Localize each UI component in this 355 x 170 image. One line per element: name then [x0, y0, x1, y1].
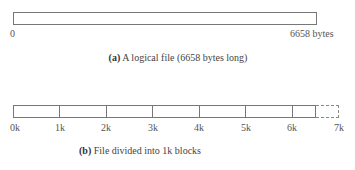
unused-block-remainder — [316, 105, 339, 118]
caption-a-text: A logical file (6658 bytes long) — [120, 52, 247, 63]
block-divider-4k — [199, 105, 200, 118]
file-end-label: 6658 bytes — [290, 28, 334, 39]
tick-label-6k: 6k — [287, 122, 297, 133]
block-divider-2k — [106, 105, 107, 118]
caption-a: (a) A logical file (6658 bytes long) — [109, 52, 248, 64]
logical-file-bar — [13, 12, 317, 25]
block-divider-1k — [59, 105, 60, 118]
tick-label-5k: 5k — [241, 122, 251, 133]
caption-a-letter: (a) — [109, 52, 121, 63]
file-start-label: 0 — [10, 28, 15, 39]
caption-b: (b) File divided into 1k blocks — [79, 145, 201, 157]
block-divider-5k — [245, 105, 246, 118]
block-divider-6k — [292, 105, 293, 118]
tick-label-7k: 7k — [334, 122, 344, 133]
tick-label-4k: 4k — [194, 122, 204, 133]
tick-label-2k: 2k — [101, 122, 111, 133]
caption-b-letter: (b) — [79, 145, 91, 156]
block-divider-3k — [152, 105, 153, 118]
tick-label-0k: 0k — [10, 122, 20, 133]
tick-label-1k: 1k — [55, 122, 65, 133]
tick-label-3k: 3k — [148, 122, 158, 133]
caption-b-text: File divided into 1k blocks — [91, 145, 201, 156]
